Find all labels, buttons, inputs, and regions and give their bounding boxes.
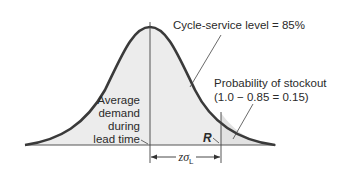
normal-distribution-diagram: zσL Cycle-service level = 85% Probabilit… (0, 0, 338, 174)
average-demand-line2: demand (98, 107, 140, 119)
stockout-label-line1: Probability of stockout (214, 77, 327, 89)
reorder-point-label: R (203, 131, 212, 145)
arrowhead-right (214, 155, 220, 160)
arrowhead-left (151, 155, 157, 160)
average-demand-line1: Average (97, 94, 140, 106)
cycle-service-label: Cycle-service level = 85% (173, 19, 305, 31)
stockout-leader (233, 104, 253, 139)
safety-stock-label: zσL (177, 150, 194, 166)
average-demand-line3: during (108, 120, 140, 132)
average-demand-line4: lead time (93, 133, 140, 145)
stockout-label-line2: (1.0 − 0.85 = 0.15) (214, 91, 309, 103)
